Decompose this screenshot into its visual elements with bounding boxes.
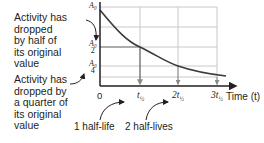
x-axis-label: Time (t) bbox=[226, 91, 260, 102]
note-line: Activity has bbox=[14, 12, 67, 24]
y-label-a0: A₀ bbox=[89, 2, 97, 9]
two-half-lives-label: 2 half-lives bbox=[125, 121, 173, 132]
x-tick-3t-half: 3t½ bbox=[211, 90, 223, 102]
x-tick-t-half: t½ bbox=[137, 90, 144, 102]
note-line: value bbox=[14, 58, 67, 70]
x-tick-2t-half: 2t½ bbox=[172, 90, 184, 102]
note-line: Activity has bbox=[14, 74, 68, 86]
one-half-life-label: 1 half-life bbox=[74, 121, 115, 132]
note-line: value bbox=[14, 120, 68, 132]
note-line: by half of bbox=[14, 35, 67, 47]
half-drop-note: Activity has dropped by half of its orig… bbox=[14, 12, 67, 70]
y-label-a0-quarter: A₀ 4 bbox=[89, 60, 97, 74]
quarter-drop-note: Activity has dropped by a quarter of its… bbox=[14, 74, 68, 132]
y-label-a0-half: A₀ 2 bbox=[89, 40, 97, 54]
x-tick-zero: 0 bbox=[97, 90, 102, 101]
note-line: a quarter of bbox=[14, 97, 68, 109]
